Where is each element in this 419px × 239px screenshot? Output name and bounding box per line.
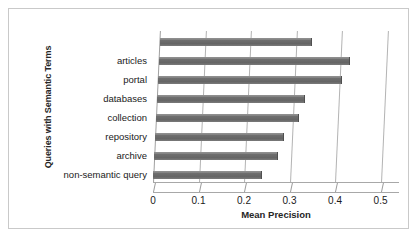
bar-row bbox=[160, 38, 406, 46]
x-tick-label-0.5: 0.5 bbox=[366, 194, 396, 207]
bar bbox=[156, 114, 299, 122]
x-tick-0.5 bbox=[381, 183, 384, 192]
x-axis-tick-labels: 00.10.20.30.40.5 bbox=[129, 194, 419, 208]
bar bbox=[153, 171, 262, 179]
bar-row bbox=[158, 76, 404, 84]
x-tick-0.1 bbox=[199, 183, 202, 192]
y-axis-label-articles: articles bbox=[117, 56, 147, 66]
bar-row bbox=[159, 57, 405, 65]
y-axis-label-archive: archive bbox=[116, 151, 147, 161]
bar-series bbox=[153, 31, 399, 183]
bar bbox=[157, 95, 305, 103]
y-axis-label-portal: portal bbox=[123, 75, 147, 85]
y-axis-tick-labels: articlesportaldatabasescollectionreposit… bbox=[45, 31, 150, 183]
bar-row bbox=[157, 95, 403, 103]
bar bbox=[160, 38, 312, 46]
x-tick-label-0.3: 0.3 bbox=[275, 194, 305, 207]
x-axis-line bbox=[153, 192, 399, 193]
x-axis-title: Mean Precision bbox=[153, 209, 399, 220]
bar-row bbox=[155, 133, 401, 141]
bar bbox=[159, 57, 350, 65]
plot-area bbox=[153, 31, 399, 183]
bar-row bbox=[153, 171, 399, 179]
bar bbox=[158, 76, 342, 84]
x-tick-label-0.2: 0.2 bbox=[229, 194, 259, 207]
x-tick-label-0.1: 0.1 bbox=[184, 194, 214, 207]
y-axis-label-repository: repository bbox=[105, 132, 147, 142]
x-tick-label-0: 0 bbox=[138, 194, 168, 207]
bar bbox=[154, 152, 278, 160]
chart-frame: Queries with Semantic Terms articlesport… bbox=[8, 8, 409, 229]
y-axis-label-non-semantic-query: non-semantic query bbox=[64, 170, 147, 180]
x-tick-0 bbox=[153, 183, 156, 192]
bar-row bbox=[154, 152, 400, 160]
x-tick-0.3 bbox=[290, 183, 293, 192]
bar bbox=[155, 133, 284, 141]
y-axis-label-databases: databases bbox=[103, 94, 147, 104]
bar-row bbox=[156, 114, 402, 122]
x-tick-0.4 bbox=[335, 183, 338, 192]
y-axis-label-collection: collection bbox=[107, 113, 147, 123]
x-tick-label-0.4: 0.4 bbox=[320, 194, 350, 207]
x-tick-0.2 bbox=[244, 183, 247, 192]
